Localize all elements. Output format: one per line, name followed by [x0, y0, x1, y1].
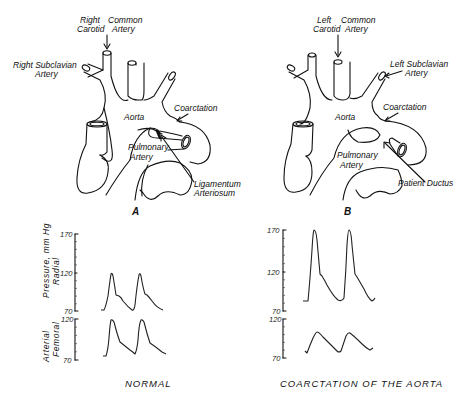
coarctation-radial-axis: 170 120 70: [267, 226, 286, 316]
coarctation-radial-waveform: [303, 230, 375, 301]
tick-70: 70: [63, 356, 72, 365]
tick-120: 120: [267, 268, 280, 277]
tick-120: 120: [60, 269, 73, 278]
label-aorta-b: Aorta: [334, 112, 356, 122]
tick-170: 170: [60, 230, 73, 239]
tick-170: 170: [267, 226, 280, 235]
label-common-artery-b-2: Artery: [344, 24, 368, 34]
normal-femoral-axis: 120 70: [61, 315, 78, 365]
y-axis-title-top: Pressure, mm Hg: [41, 223, 51, 298]
label-common-artery-2: Artery: [111, 24, 135, 34]
coarctation-femoral-waveform: [305, 332, 373, 353]
label-coarctation: Coarctation: [174, 103, 218, 113]
label-patient-ductus: Patient Ductus: [398, 178, 454, 188]
y-axis-title-pressure: Pressure, mm Hg: [41, 223, 51, 298]
label-ligamentum-2: Arteriosum: [193, 188, 235, 198]
caption-coarctation: COARCTATION OF THE AORTA: [280, 378, 443, 389]
tick-120: 120: [269, 315, 282, 324]
normal-femoral-waveform: [103, 320, 166, 356]
caption-normal: NORMAL: [125, 378, 172, 389]
figure-canvas: Right Carotid Common Artery Right Subcla…: [0, 0, 467, 402]
panel-label-a: A: [131, 206, 139, 217]
label-left-carotid-2: Carotid: [313, 24, 341, 34]
coarctation-femoral-axis: 120 70: [269, 315, 286, 363]
label-right-subclavian-2: Artery: [34, 69, 58, 79]
label-aorta: Aorta: [123, 112, 145, 122]
heart-diagram-normal: Right Carotid Common Artery Right Subcla…: [13, 15, 241, 200]
label-pulmonary-2: Artery: [129, 152, 153, 162]
label-right-carotid-2: Carotid: [77, 24, 105, 34]
y-axis-title-arterial: Arterial: [41, 330, 51, 363]
label-left-subclavian-2: Artery: [404, 68, 428, 78]
label-coarctation-b: Coarctation: [383, 102, 427, 112]
label-pulmonary-1: Pulmonary: [128, 142, 169, 152]
y-axis-title-femoral: Femoral: [51, 321, 61, 357]
heart-diagram-coarctation: Left Carotid Common Artery Left Subclavi…: [284, 15, 454, 200]
normal-radial-axis: 170 120 70: [60, 230, 78, 316]
tick-70: 70: [272, 354, 281, 363]
normal-radial-waveform: [101, 273, 163, 310]
label-pulmonary-b-1: Pulmonary: [337, 150, 378, 160]
tick-120: 120: [61, 315, 74, 324]
label-pulmonary-b-2: Artery: [339, 160, 363, 170]
panel-label-b: B: [344, 206, 351, 217]
